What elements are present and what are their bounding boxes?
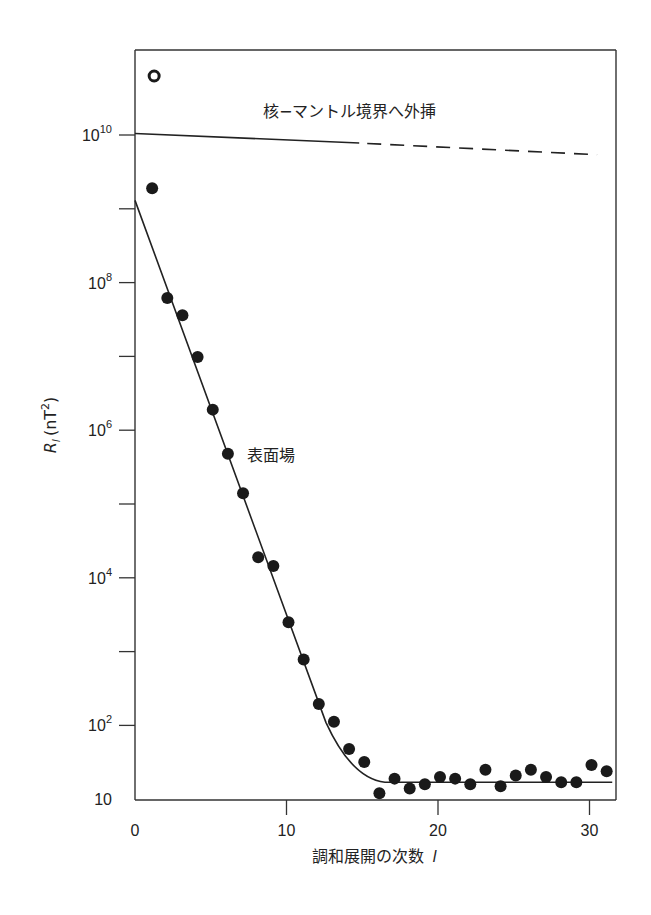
- y-tick-label: 104: [88, 566, 112, 587]
- cmb-extrapolation-label: 核−マントル境界へ外挿: [263, 102, 436, 121]
- data-point: [313, 698, 325, 710]
- y-axis-title-unit: (nT: [41, 410, 60, 436]
- data-point: [555, 776, 567, 788]
- data-point: [510, 769, 522, 781]
- data-point: [495, 780, 507, 792]
- data-point: [267, 560, 279, 572]
- data-point: [328, 716, 340, 728]
- data-point: [176, 309, 188, 321]
- data-point: [601, 765, 613, 777]
- data-point: [570, 776, 582, 788]
- y-axis-title-main: R: [41, 442, 60, 453]
- data-point: [343, 743, 355, 755]
- data-point: [404, 782, 416, 794]
- data-point: [146, 182, 158, 194]
- y-axis-title-sub: l: [50, 439, 63, 442]
- y-axis-title-unit-close: ): [41, 397, 60, 403]
- x-tick-label: 30: [581, 822, 599, 839]
- y-axis-ticks: 101010810610410210: [82, 123, 135, 808]
- x-axis-title-main: 調和展開の次数: [312, 847, 424, 866]
- x-tick-label: 0: [131, 822, 140, 839]
- data-point: [525, 764, 537, 776]
- data-point: [237, 487, 249, 499]
- data-point: [389, 773, 401, 785]
- y-tick-label: 102: [88, 713, 112, 734]
- data-point: [298, 654, 310, 666]
- data-point: [161, 292, 173, 304]
- data-point: [283, 616, 295, 628]
- x-tick-label: 10: [278, 822, 296, 839]
- cmb-extrapolation-solid-line: [135, 133, 359, 143]
- data-points: [146, 71, 613, 799]
- data-point: [358, 756, 370, 768]
- x-axis-ticks: 0102030: [131, 800, 599, 839]
- data-point: [449, 773, 461, 785]
- data-point: [434, 771, 446, 783]
- data-point: [540, 771, 552, 783]
- data-point: [192, 351, 204, 363]
- fit-lines: [135, 133, 612, 782]
- x-axis-title: 調和展開の次数 l: [312, 847, 437, 866]
- data-point: [222, 448, 234, 460]
- x-axis-title-var: l: [433, 848, 437, 865]
- y-tick-label: 108: [88, 271, 112, 292]
- y-tick-label: 1010: [82, 123, 112, 144]
- data-point: [373, 787, 385, 799]
- open-circle-point: [149, 71, 159, 81]
- plot-frame: [135, 50, 616, 800]
- x-tick-label: 20: [429, 822, 447, 839]
- data-point: [586, 759, 598, 771]
- cmb-extrapolation-dashed-line: [367, 143, 597, 154]
- chart-figure: 101010810610410210 0102030 核−マントル境界へ外挿 表…: [0, 0, 651, 915]
- data-point: [464, 778, 476, 790]
- surface-field-fit-line: [135, 200, 612, 782]
- y-tick-label: 106: [88, 418, 112, 439]
- data-point: [479, 764, 491, 776]
- y-tick-label: 10: [94, 791, 112, 808]
- data-point: [207, 404, 219, 416]
- y-axis-title-unit-exp: 2: [39, 403, 52, 410]
- y-axis-title: Rl(nT2): [39, 397, 63, 454]
- data-point: [252, 551, 264, 563]
- surface-field-label: 表面場: [247, 446, 295, 465]
- data-point: [419, 778, 431, 790]
